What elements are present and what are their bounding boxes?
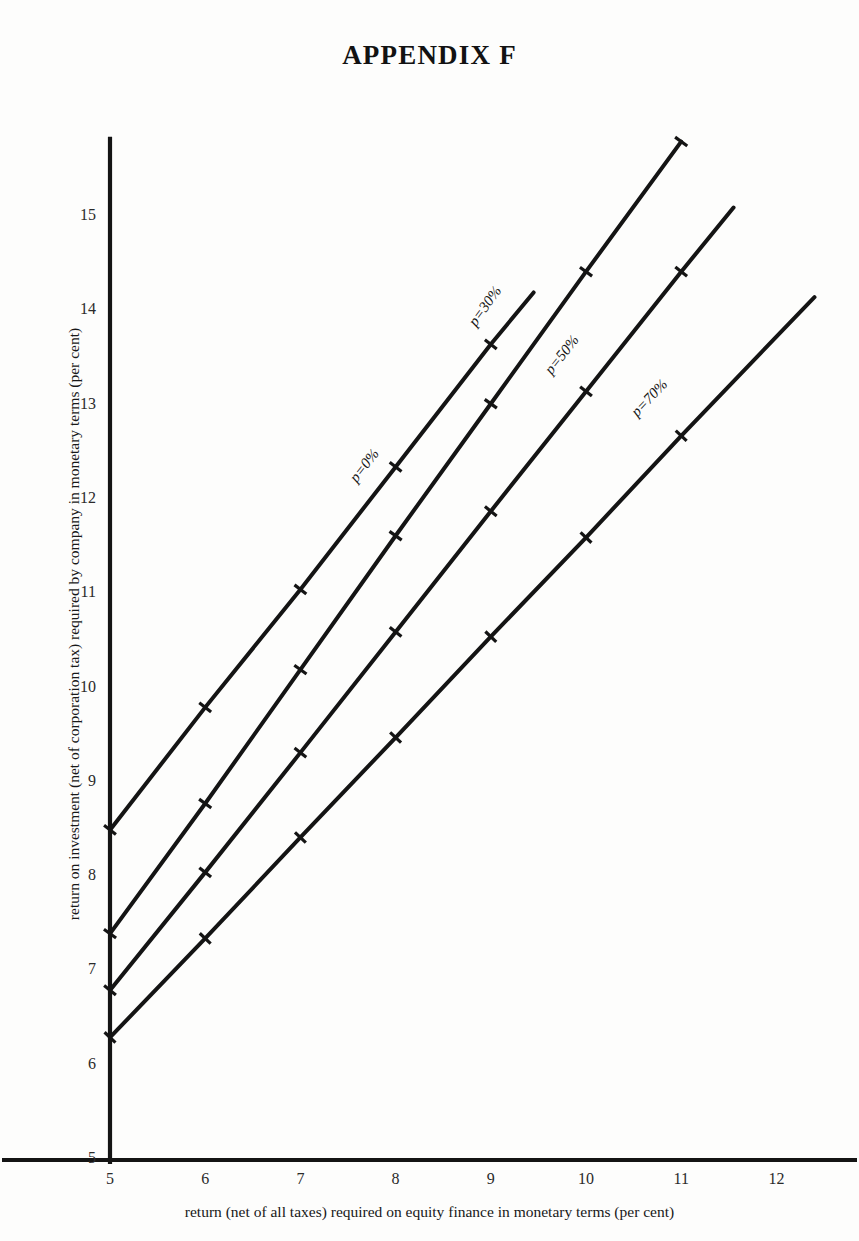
plot-canvas (0, 0, 859, 1241)
x-tick-label: 10 (569, 1170, 603, 1188)
y-tick-label: 6 (62, 1055, 96, 1073)
series-line-0 (110, 292, 534, 830)
x-tick-label: 6 (188, 1170, 222, 1188)
y-tick-label: 15 (62, 206, 96, 224)
axis-lines (2, 137, 857, 1164)
x-tick-label: 7 (283, 1170, 317, 1188)
series-data-markers (104, 137, 687, 1042)
x-tick-label: 12 (759, 1170, 793, 1188)
chart-page: APPENDIX F 5678910111256789101112131415 … (0, 0, 859, 1241)
x-tick-label: 8 (379, 1170, 413, 1188)
series-line-3 (110, 297, 814, 1037)
x-tick-label: 5 (93, 1170, 127, 1188)
x-tick-label: 9 (474, 1170, 508, 1188)
series-lines (110, 142, 814, 1038)
x-axis-title: return (net of all taxes) required on eq… (0, 1203, 859, 1221)
y-axis-title: return on investment (net of corporation… (65, 234, 83, 1014)
y-tick-label: 5 (62, 1149, 96, 1167)
x-tick-label: 11 (664, 1170, 698, 1188)
